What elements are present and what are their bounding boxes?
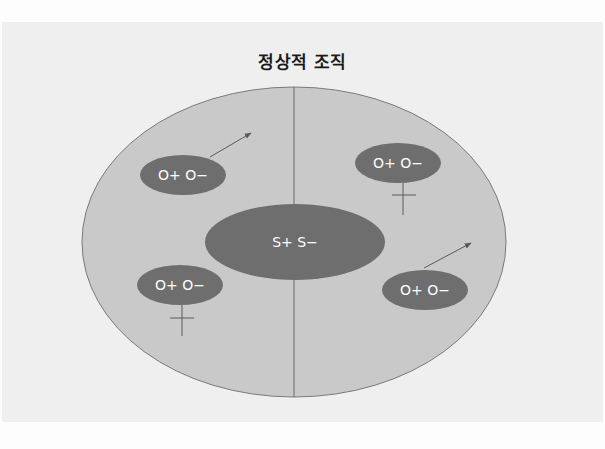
node-label: O+ O− (400, 282, 450, 298)
center-node-label: S+ S− (272, 234, 318, 250)
center-node: S+ S− (205, 204, 385, 280)
tissue-diagram: S+ S− O+ O− O+ O− O+ O− O+ O− (0, 0, 605, 449)
node-label: O+ O− (158, 167, 208, 183)
node-label: O+ O− (155, 277, 205, 293)
node-label: O+ O− (373, 155, 423, 171)
